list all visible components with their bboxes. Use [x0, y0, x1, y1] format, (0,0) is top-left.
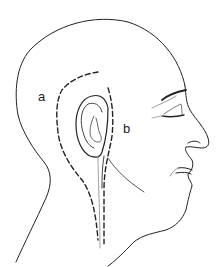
- head-profile-drawing: [0, 0, 224, 267]
- mouth: [176, 168, 192, 174]
- ear-outer: [76, 96, 108, 158]
- eyelid: [164, 104, 182, 115]
- nostril: [188, 141, 200, 143]
- neck-line-posterior: [98, 156, 100, 248]
- eyebrow: [162, 90, 186, 100]
- mouth-corner: [170, 168, 178, 176]
- label-b: b: [123, 122, 130, 135]
- label-a: a: [38, 90, 45, 103]
- eye: [162, 115, 184, 117]
- ear-concha: [90, 116, 101, 142]
- head-profile-diagram: a b: [0, 0, 224, 267]
- ear-inner: [81, 103, 102, 148]
- jaw-line: [108, 158, 144, 192]
- eyelashes: [152, 116, 163, 118]
